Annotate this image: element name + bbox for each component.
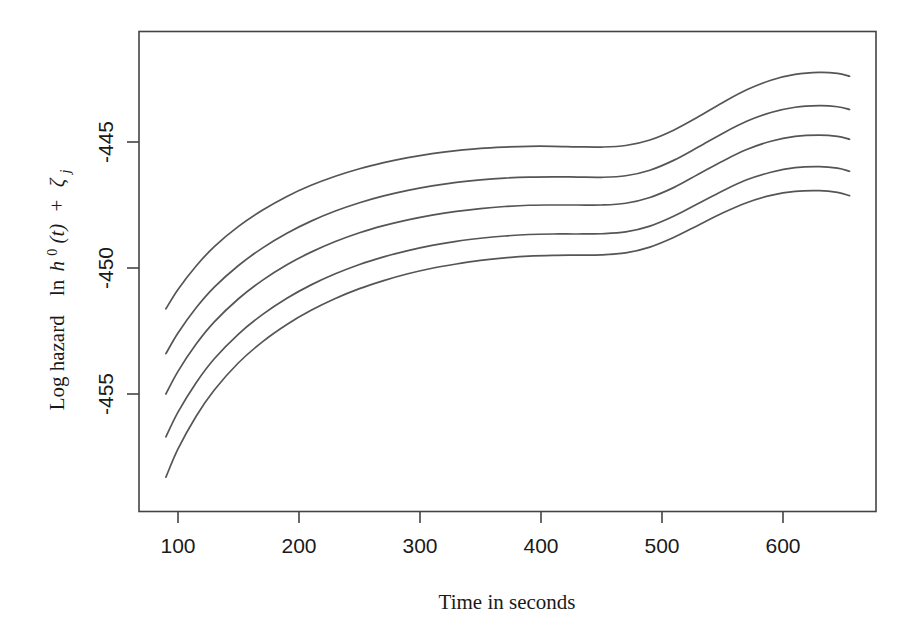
y-axis-tick-labels: -445 -450 -455 xyxy=(94,121,117,415)
x-tick-label: 400 xyxy=(523,534,558,557)
x-axis-tick-labels: 100 200 300 400 500 600 xyxy=(160,534,800,557)
hazard-line-chart: 100 200 300 400 500 600 -445 -450 -455 L… xyxy=(0,0,912,640)
data-curve-5 xyxy=(166,191,850,478)
y-axis-title-zeta: ζ xyxy=(45,177,69,187)
y-tick-label: -455 xyxy=(94,373,117,415)
data-curve-3 xyxy=(166,135,850,394)
x-tick-label: 200 xyxy=(281,534,316,557)
y-tick-label: -445 xyxy=(94,121,117,163)
y-axis-title: Log hazard ln h 0 (t) + ζ j xyxy=(38,170,73,411)
x-axis-ticks xyxy=(178,512,783,524)
x-tick-label: 100 xyxy=(160,534,195,557)
y-axis-title-plus: + xyxy=(45,200,69,212)
y-axis-title-h: h xyxy=(45,261,69,272)
plot-frame xyxy=(139,32,876,512)
y-axis-title-t: (t) xyxy=(45,224,69,244)
data-curves-group xyxy=(166,72,850,477)
chart-page: 100 200 300 400 500 600 -445 -450 -455 L… xyxy=(0,0,912,640)
svg-text:Log hazard ln: Log hazard ln h 0 (t) + ζ j xyxy=(38,170,73,411)
data-curve-2 xyxy=(166,106,850,354)
x-tick-label: 600 xyxy=(765,534,800,557)
y-axis-title-ln: ln xyxy=(45,279,69,296)
x-tick-label: 500 xyxy=(644,534,679,557)
y-axis-ticks xyxy=(127,142,139,394)
y-axis-title-prefix: Log hazard xyxy=(45,315,69,411)
x-tick-label: 300 xyxy=(402,534,437,557)
y-axis-title-h-sup: 0 xyxy=(45,249,60,256)
y-tick-label: -450 xyxy=(94,247,117,289)
data-curve-1 xyxy=(166,72,850,308)
y-axis-title-zeta-sub: j xyxy=(58,170,73,176)
x-axis-title: Time in seconds xyxy=(439,590,576,614)
